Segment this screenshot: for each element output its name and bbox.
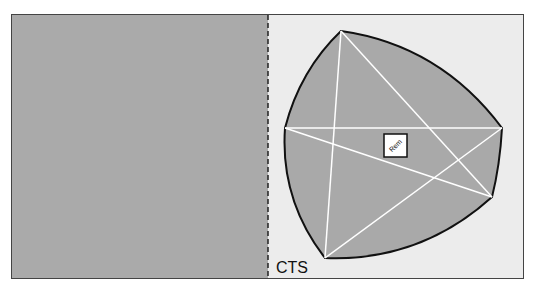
diagram-svg: Rem <box>0 0 536 292</box>
rem-box: Rem <box>384 134 407 157</box>
